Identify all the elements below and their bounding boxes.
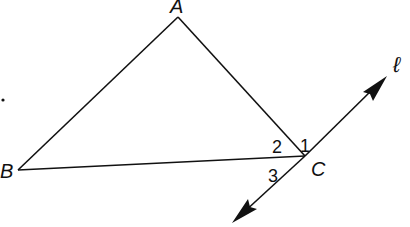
stray-dot	[1, 98, 4, 101]
triangle-diagram: A B C ℓ 1 2 3	[0, 0, 410, 227]
label-a: A	[169, 0, 183, 17]
label-line-l: ℓ	[392, 52, 401, 77]
angle-label-3: 3	[268, 166, 278, 186]
arrow-head-upper-icon	[363, 76, 387, 101]
angle-label-1: 1	[300, 136, 310, 156]
label-c: C	[311, 158, 326, 180]
line-l-upper	[305, 87, 375, 156]
segment-bc	[18, 156, 305, 170]
angle-label-2: 2	[272, 137, 282, 157]
segment-ac	[178, 17, 305, 156]
label-b: B	[0, 160, 13, 182]
segment-ab	[18, 17, 178, 170]
